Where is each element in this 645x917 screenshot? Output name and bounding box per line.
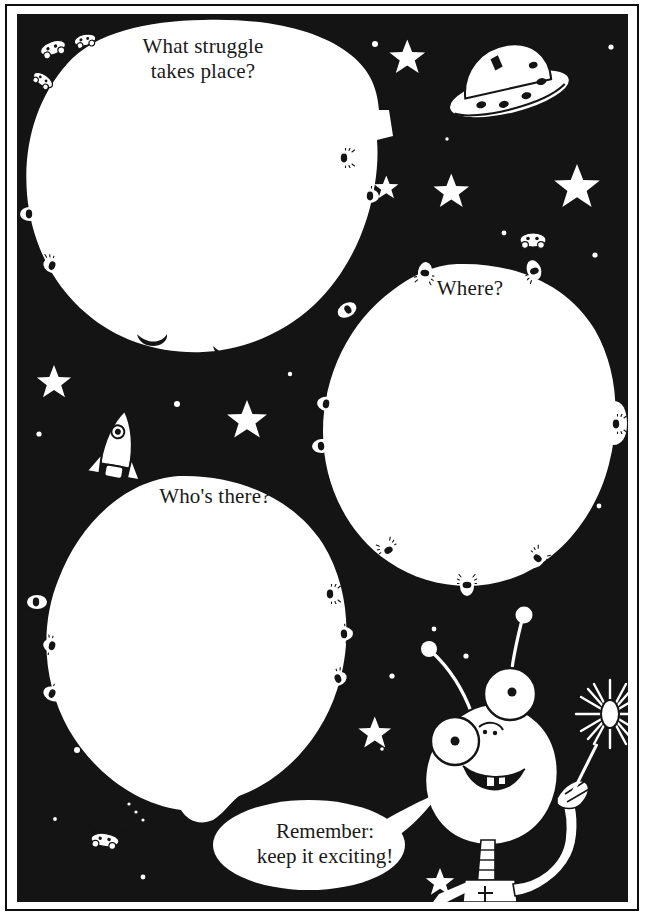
space-artwork [17, 14, 628, 902]
worksheet-page: What struggle takes place? Where? Who's … [0, 0, 645, 917]
sparkler-icon [576, 680, 628, 748]
moon-rover-icon [520, 220, 546, 248]
space-illustration: What struggle takes place? Where? Who's … [17, 14, 628, 902]
moon-rover-icon [84, 823, 129, 851]
planet-where[interactable] [310, 257, 627, 596]
rocket-icon [86, 406, 151, 482]
planet-who[interactable] [26, 476, 356, 851]
speech-bubble [213, 792, 441, 890]
alien-character-icon [421, 607, 597, 903]
flying-saucer-icon [438, 32, 575, 128]
space-field: What struggle takes place? Where? Who's … [17, 14, 628, 902]
planet-struggle[interactable] [19, 20, 394, 359]
